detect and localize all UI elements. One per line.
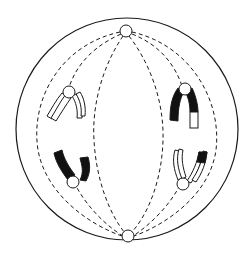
spindle-fiber (74, 182, 123, 236)
spindle-fibers (37, 32, 217, 236)
upper-left-chromosome (47, 86, 85, 121)
lower-left-chromosome (54, 150, 90, 188)
spindle-fiber (133, 185, 180, 236)
spindle-fiber (94, 36, 125, 233)
cell-membrane (16, 18, 238, 240)
spindle-fiber (132, 32, 217, 236)
mitosis-diagram (0, 0, 252, 260)
top-centrosome (120, 25, 132, 37)
upper-right-chromosome (170, 83, 198, 128)
lower-right-chromosome (174, 149, 207, 190)
spindle-fiber (129, 36, 163, 233)
spindle-fiber (132, 34, 182, 86)
diagram-canvas (0, 0, 252, 260)
bottom-centrosome (122, 230, 134, 242)
